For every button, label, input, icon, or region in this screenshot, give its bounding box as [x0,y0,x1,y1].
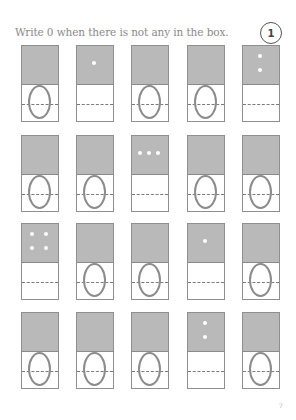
guide-line [77,104,113,105]
answer-box[interactable] [188,85,224,121]
zero-trace-glyph [138,263,161,297]
counting-card [131,312,169,389]
dot-icon [30,232,34,236]
answer-box[interactable] [132,263,168,299]
answer-box[interactable] [22,352,58,388]
dot-icon [30,246,34,250]
zero-trace-glyph [138,352,161,386]
answer-box[interactable] [132,352,168,388]
zero-trace-glyph [28,85,51,119]
counting-card [242,135,280,212]
counting-card [187,223,225,300]
counting-card [187,312,225,389]
dot-box [243,224,279,263]
dot-icon [258,68,262,72]
answer-box[interactable] [77,263,113,299]
counting-card [21,312,59,389]
dot-icon [203,335,207,339]
answer-box[interactable] [243,175,279,211]
dot-box [22,313,58,352]
counting-card [242,312,280,389]
answer-box[interactable] [77,175,113,211]
guide-line [22,282,58,283]
zero-trace-glyph [249,175,272,209]
dot-box [188,313,224,352]
dot-box [77,224,113,263]
answer-box[interactable] [188,263,224,299]
answer-box[interactable] [22,175,58,211]
dot-box [77,136,113,175]
dot-box [77,46,113,85]
dot-icon [44,246,48,250]
zero-trace-glyph [249,263,272,297]
dot-icon [203,239,207,243]
guide-line [132,194,168,195]
guide-line [243,104,279,105]
answer-box[interactable] [243,352,279,388]
answer-box[interactable] [188,175,224,211]
dot-box [243,136,279,175]
counting-card [131,45,169,122]
dot-box [77,313,113,352]
counting-card [21,135,59,212]
dot-icon [138,151,142,155]
dot-box [22,136,58,175]
dot-icon [44,232,48,236]
zero-trace-glyph [138,85,161,119]
dot-box [188,224,224,263]
counting-card [242,45,280,122]
zero-trace-glyph [83,352,106,386]
zero-trace-glyph [28,352,51,386]
zero-trace-glyph [28,175,51,209]
answer-box[interactable] [22,263,58,299]
guide-line [188,371,224,372]
answer-box[interactable] [243,263,279,299]
dot-icon [147,151,151,155]
dot-icon [258,54,262,58]
dot-box [22,46,58,85]
dot-box [132,46,168,85]
answer-box[interactable] [243,85,279,121]
dot-box [243,46,279,85]
counting-card [76,223,114,300]
exercise-number-badge: 1 [260,22,282,44]
counting-card [187,135,225,212]
instruction-text: Write 0 when there is not any in the box… [15,26,229,38]
counting-card [21,223,59,300]
exercise-number: 1 [268,28,275,39]
counting-card [187,45,225,122]
answer-box[interactable] [188,352,224,388]
answer-box[interactable] [132,175,168,211]
counting-card [131,135,169,212]
zero-trace-glyph [83,263,106,297]
dot-icon [156,151,160,155]
guide-line [188,282,224,283]
dot-icon [92,61,96,65]
zero-trace-glyph [194,85,217,119]
dot-box [243,313,279,352]
dot-box [22,224,58,263]
dot-box [188,136,224,175]
counting-card [21,45,59,122]
dot-box [132,224,168,263]
zero-trace-glyph [194,175,217,209]
dot-icon [203,321,207,325]
counting-card [242,223,280,300]
dot-box [132,136,168,175]
zero-trace-glyph [249,352,272,386]
answer-box[interactable] [77,352,113,388]
counting-card [76,45,114,122]
dot-box [188,46,224,85]
counting-card [76,135,114,212]
page-number: 7 [279,402,283,409]
dot-box [132,313,168,352]
zero-trace-glyph [83,175,106,209]
answer-box[interactable] [22,85,58,121]
counting-card [76,312,114,389]
answer-box[interactable] [77,85,113,121]
counting-card [131,223,169,300]
answer-box[interactable] [132,85,168,121]
